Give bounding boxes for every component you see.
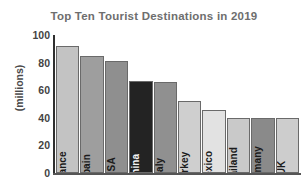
y-axis-tick-labels: 020406080100 <box>22 30 50 178</box>
y-axis-tick-label: 40 <box>22 113 50 123</box>
bar-mexico[interactable]: Mexico <box>202 110 225 173</box>
bar-label: USA <box>107 157 117 173</box>
bar-label: Thailand <box>229 147 239 173</box>
bar-china[interactable]: China <box>129 81 152 173</box>
bar-label: China <box>131 154 141 173</box>
bar-label: Mexico <box>204 151 214 173</box>
y-axis-tick-label: 100 <box>22 30 50 40</box>
bar-series: FranceSpainUSAChinaItalyTurkeyMexicoThai… <box>56 35 299 173</box>
bar-label: Germany <box>253 146 263 173</box>
y-axis-tick-label: 80 <box>22 58 50 68</box>
bar-usa[interactable]: USA <box>105 61 128 173</box>
bar-thailand[interactable]: Thailand <box>227 118 250 173</box>
bar-france[interactable]: France <box>56 46 79 173</box>
bar-italy[interactable]: Italy <box>154 82 177 173</box>
bar-label: France <box>58 151 68 173</box>
y-axis-line <box>53 35 55 174</box>
bar-turkey[interactable]: Turkey <box>178 101 201 173</box>
y-axis-tick-label: 20 <box>22 140 50 150</box>
bar-uk[interactable]: UK <box>276 118 299 173</box>
chart-title: Top Ten Tourist Destinations in 2019 <box>0 10 308 22</box>
y-axis-tick-label: 0 <box>22 168 50 178</box>
bar-label: Turkey <box>180 152 190 173</box>
bar-chart-figure: Top Ten Tourist Destinations in 2019 (mi… <box>0 0 308 188</box>
bar-label: Spain <box>82 154 92 173</box>
x-axis-line <box>53 173 301 175</box>
bar-spain[interactable]: Spain <box>80 56 103 173</box>
bar-label: UK <box>277 161 287 173</box>
plot-area: FranceSpainUSAChinaItalyTurkeyMexicoThai… <box>53 35 301 173</box>
bar-germany[interactable]: Germany <box>251 118 274 173</box>
y-axis-tick-label: 60 <box>22 85 50 95</box>
bar-label: Italy <box>155 158 165 173</box>
